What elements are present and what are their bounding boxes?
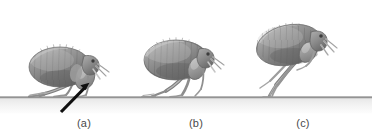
- figure-canvas: [0, 0, 372, 134]
- ground-band: [0, 98, 372, 114]
- ground-group: [0, 97, 372, 113]
- panel-label-c: (c): [296, 117, 309, 129]
- panel-label-a: (a): [77, 117, 91, 129]
- flea-c: [253, 19, 337, 97]
- flea-c-eye: [319, 34, 323, 38]
- flea-b: [142, 37, 224, 97]
- flea-b-eye: [206, 52, 209, 55]
- panel-label-b: (b): [189, 117, 203, 129]
- flea-jump-figure: (a) (b) (c): [0, 0, 372, 134]
- flea-a-eye: [91, 59, 94, 62]
